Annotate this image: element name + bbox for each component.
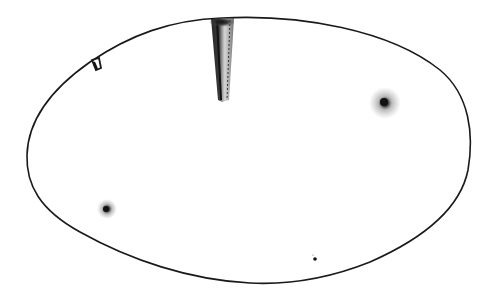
vertical-stem-mark bbox=[209, 17, 235, 102]
oval-line-drawing bbox=[0, 0, 493, 304]
oval-outline bbox=[27, 17, 470, 283]
stipple-spot-right bbox=[369, 87, 401, 119]
stipple-spot-left bbox=[97, 199, 117, 219]
small-notch-mark bbox=[92, 58, 101, 70]
tiny-dot-mark bbox=[312, 254, 316, 260]
